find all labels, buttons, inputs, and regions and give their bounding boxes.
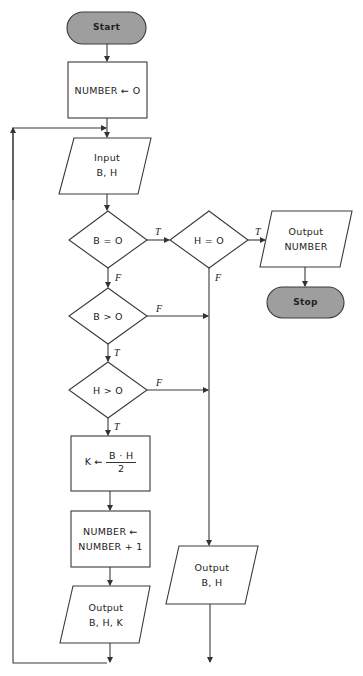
edge-label-h-gt-0-false: F (156, 377, 162, 388)
b-gt-0-label: B > O (69, 309, 147, 324)
compute-k-label: K ← B · H 2 (71, 450, 150, 475)
output-bh-line1: Output (168, 560, 256, 575)
h-gt-0-label: H > O (69, 383, 147, 398)
edge-label-h-eq-0-true: T (255, 226, 261, 237)
compute-k-lhs: K ← (85, 456, 103, 467)
output-number-line1: Output (262, 224, 350, 239)
edge-label-b-gt-0-false: F (156, 303, 162, 314)
start-label: Start (67, 20, 146, 35)
edge-label-b-eq-0-true: T (155, 226, 161, 237)
output-number-line2: NUMBER (262, 239, 350, 254)
output-bhk-line1: Output (62, 600, 150, 615)
input-label: Input B, H (62, 150, 152, 180)
increment-label: NUMBER ← NUMBER + 1 (71, 524, 150, 554)
compute-k-fraction: B · H 2 (106, 450, 136, 475)
stop-label: Stop (267, 295, 344, 310)
h-eq-0-label: H = O (170, 233, 248, 248)
output-bh-label: Output B, H (168, 560, 256, 590)
edge-label-b-eq-0-false: F (115, 272, 121, 283)
init-label: NUMBER ← O (68, 83, 147, 98)
compute-k-denominator: 2 (118, 463, 124, 475)
b-eq-0-label: B = O (69, 233, 147, 248)
output-bhk-label: Output B, H, K (62, 600, 150, 630)
edge-label-h-gt-0-true: T (114, 421, 120, 432)
output-number-label: Output NUMBER (262, 224, 350, 254)
edge-label-b-gt-0-true: T (114, 347, 120, 358)
compute-k-numerator: B · H (106, 450, 136, 463)
output-bh-line2: B, H (168, 575, 256, 590)
input-label-line1: Input (62, 150, 152, 165)
increment-line2: NUMBER + 1 (71, 539, 150, 554)
increment-line1: NUMBER ← (71, 524, 150, 539)
output-bhk-line2: B, H, K (62, 615, 150, 630)
edge-label-h-eq-0-false: F (215, 272, 221, 283)
input-label-line2: B, H (62, 165, 152, 180)
